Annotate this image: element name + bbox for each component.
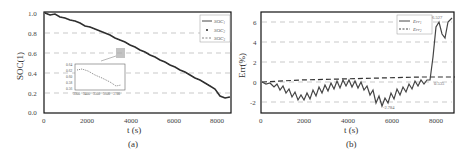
svg-text:4000: 4000 <box>124 117 139 125</box>
svg-text:0.62: 0.62 <box>66 69 72 73</box>
svg-text:0: 0 <box>253 79 257 87</box>
legend-b: Err1 Err2 <box>397 15 432 34</box>
svg-text:3300: 3300 <box>73 92 80 96</box>
svg-text:0.8: 0.8 <box>28 30 37 38</box>
svg-text:8000: 8000 <box>429 117 444 125</box>
legend-a: SOC1 SOC2 SOC3 <box>200 15 230 42</box>
svg-text:0.6: 0.6 <box>28 50 37 58</box>
svg-text:0.0: 0.0 <box>28 109 37 117</box>
x-ticks-b: 0 2000 4000 6000 8000 <box>259 117 444 125</box>
y-ticks-a: 1.0 0.8 0.6 0.4 0.2 0.0 <box>28 10 37 117</box>
svg-text:2: 2 <box>253 59 257 67</box>
zoom-region <box>116 48 125 58</box>
svg-text:4000: 4000 <box>341 117 356 125</box>
svg-text:0: 0 <box>42 117 46 125</box>
svg-text:0.60: 0.60 <box>66 75 72 79</box>
svg-text:2000: 2000 <box>297 117 312 125</box>
svg-text:3700: 3700 <box>113 92 120 96</box>
x-axis-label-a: t (s) <box>127 125 141 135</box>
annotation-max: 6.527 <box>432 15 443 20</box>
y-axis-label-b: Err(%) <box>237 53 247 78</box>
annotation-end: 0.535 <box>434 81 445 86</box>
svg-text:3500: 3500 <box>93 92 100 96</box>
inset-plot: 0.64 0.62 0.60 0.58 0.56 3300 3400 3500 … <box>66 63 125 96</box>
svg-text:6000: 6000 <box>167 117 182 125</box>
svg-text:6: 6 <box>253 19 257 27</box>
caption-a: (a) <box>128 139 138 149</box>
svg-text:3400: 3400 <box>83 92 90 96</box>
svg-text:-2: -2 <box>250 99 256 107</box>
x-ticks-a: 0 2000 4000 6000 8000 <box>42 117 225 125</box>
svg-text:3600: 3600 <box>103 92 110 96</box>
y-ticks-b: 6 4 2 0 -2 <box>250 19 257 107</box>
svg-text:0.58: 0.58 <box>66 81 72 85</box>
svg-text:1.0: 1.0 <box>28 10 37 18</box>
svg-text:0.2: 0.2 <box>28 90 37 98</box>
svg-text:0.4: 0.4 <box>28 70 37 78</box>
panel-a: 0.64 0.62 0.60 0.58 0.56 3300 3400 3500 … <box>15 10 231 149</box>
x-axis-label-b: t (s) <box>344 125 358 135</box>
svg-text:0.56: 0.56 <box>66 87 72 91</box>
svg-text:8000: 8000 <box>210 117 225 125</box>
figure: 0.64 0.62 0.60 0.58 0.56 3300 3400 3500 … <box>0 0 471 156</box>
svg-text:2000: 2000 <box>80 117 95 125</box>
svg-text:6000: 6000 <box>385 117 400 125</box>
panel-b: Err1 Err2 6.527 0.535 -2.784 6 4 2 0 -2 … <box>237 12 455 149</box>
y-axis-label-a: SOC(1) <box>15 52 25 80</box>
caption-b: (b) <box>346 139 357 149</box>
annotation-min: -2.784 <box>383 105 395 110</box>
svg-text:0.64: 0.64 <box>66 63 72 67</box>
zoom-pointer <box>101 56 116 61</box>
svg-text:0: 0 <box>259 117 263 125</box>
svg-text:4: 4 <box>253 39 257 47</box>
